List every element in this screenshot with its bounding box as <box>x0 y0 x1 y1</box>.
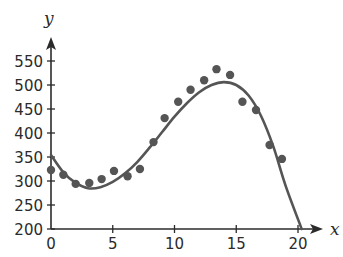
axes <box>46 37 323 234</box>
y-axis-label: y <box>43 8 54 28</box>
data-point <box>85 179 93 187</box>
data-point <box>72 180 80 188</box>
data-point <box>59 171 67 179</box>
y-tick-label: 300 <box>14 173 43 191</box>
x-tick-label: 10 <box>165 235 184 253</box>
x-tick-label: 20 <box>288 235 307 253</box>
data-point <box>136 165 144 173</box>
data-point <box>110 167 118 175</box>
data-point <box>186 86 194 94</box>
data-point <box>47 166 55 174</box>
data-point <box>160 114 168 122</box>
data-point <box>278 155 286 163</box>
y-tick-label: 250 <box>14 197 43 215</box>
x-tick-label: 0 <box>46 235 56 253</box>
x-axis-label: x <box>330 219 340 239</box>
data-point <box>174 98 182 106</box>
tick-labels: 05101520200250300350400450500550 <box>14 53 307 254</box>
x-tick-label: 15 <box>227 235 246 253</box>
data-point <box>149 138 157 146</box>
data-point <box>265 141 273 149</box>
y-tick-label: 350 <box>14 149 43 167</box>
data-point <box>97 175 105 183</box>
data-point <box>226 71 234 79</box>
y-tick-label: 200 <box>14 221 43 239</box>
data-point <box>123 172 131 180</box>
tick-marks <box>47 61 298 233</box>
data-point <box>252 106 260 114</box>
y-tick-label: 550 <box>14 53 43 71</box>
x-tick-label: 5 <box>108 235 118 253</box>
data-point <box>238 98 246 106</box>
y-tick-label: 500 <box>14 77 43 95</box>
y-tick-label: 400 <box>14 125 43 143</box>
data-point <box>212 65 220 73</box>
y-tick-label: 450 <box>14 101 43 119</box>
data-point <box>200 76 208 84</box>
scatter-plot-chart: 05101520200250300350400450500550 x y <box>0 0 343 257</box>
